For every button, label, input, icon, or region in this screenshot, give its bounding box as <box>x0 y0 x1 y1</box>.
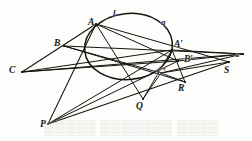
label-A: A <box>88 18 94 28</box>
point-Aprime <box>171 49 173 51</box>
line-C-Aprime <box>22 50 172 72</box>
label-B: B <box>54 39 60 49</box>
label-Bprime: B′ <box>184 55 193 65</box>
point-R <box>184 81 186 83</box>
label-Q: Q <box>136 102 143 112</box>
point-C <box>21 71 23 73</box>
line-P-Aprime <box>48 50 172 124</box>
line-P-S <box>48 62 229 124</box>
line-Aprime-z <box>172 50 243 54</box>
label-C: C <box>9 66 15 76</box>
point-Bprime <box>177 60 179 62</box>
label-P: P <box>40 120 46 130</box>
label-z: z <box>236 50 240 59</box>
line-Cprime-S <box>161 62 229 73</box>
point-A <box>95 23 97 25</box>
label-l: l <box>113 9 116 18</box>
point-S <box>228 61 230 63</box>
line-B-R <box>64 46 185 82</box>
line-C-Bprime <box>22 61 178 72</box>
label-S: S <box>224 66 229 76</box>
label-Cprime: C′ <box>157 68 166 78</box>
label-a: a <box>161 18 166 27</box>
label-Aprime: A′ <box>174 40 183 50</box>
point-B <box>63 45 65 47</box>
point-z <box>242 53 244 55</box>
label-R: R <box>178 84 184 94</box>
page-bleed-through-text: ▒▒▒▒▒ ▒▒▒▒▒▒▒ ▒▒▒▒ ▒▒▒ <box>44 120 219 136</box>
point-Q <box>142 98 144 100</box>
geometry-figure: ▒▒▒▒▒ ▒▒▒▒▒▒▒ ▒▒▒▒ ▒▒▒ AlaBA′B′CC′zSRQP <box>0 0 252 141</box>
